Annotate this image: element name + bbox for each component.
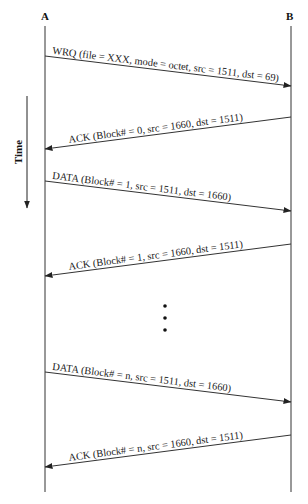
ellipsis-icon bbox=[163, 304, 167, 332]
message-label: WRQ (file = XXX, mode = octet, src = 151… bbox=[52, 45, 280, 85]
ellipsis-dot bbox=[163, 304, 167, 308]
message-label: ACK (Block# = n, src = 1660, dst = 1511) bbox=[68, 429, 244, 464]
ellipsis-dot bbox=[163, 316, 167, 320]
participant-b-label: B bbox=[286, 10, 294, 22]
tftp-sequence-diagram: A B Time WRQ (file = XXX, mode = octet, … bbox=[0, 0, 308, 504]
participant-a-label: A bbox=[41, 10, 49, 22]
message-label: ACK (Block# = 1, src = 1660, dst = 1511) bbox=[68, 238, 244, 273]
message-group: WRQ (file = XXX, mode = octet, src = 151… bbox=[45, 45, 291, 467]
message-label: DATA (Block# = n, src = 1511, dst = 1660… bbox=[52, 361, 232, 395]
message-label: ACK (Block# = 0, src = 1660, dst = 1511) bbox=[68, 111, 244, 146]
time-label: Time bbox=[12, 140, 24, 164]
ellipsis-dot bbox=[163, 328, 167, 332]
message-label: DATA (Block# = 1, src = 1511, dst = 1660… bbox=[52, 170, 232, 204]
